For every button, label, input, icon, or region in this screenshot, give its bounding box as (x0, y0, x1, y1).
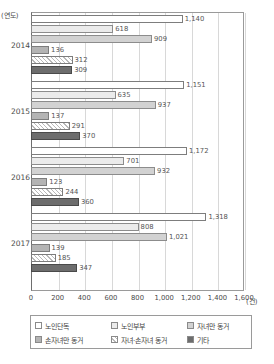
x-tick-label: 600 (104, 294, 117, 302)
legend-swatch-icon (187, 336, 194, 343)
bar-value-label: 123 (49, 178, 62, 186)
y-axis-unit-label: (연도) (1, 10, 18, 20)
bar (31, 112, 49, 120)
chart-legend: 노인단독 노인부부 자녀만 동거 손자녀만 동거 자녀·손자녀 동거 (30, 315, 252, 349)
bar-value-label: 808 (141, 223, 154, 231)
legend-label: 자녀만 동거 (197, 321, 229, 331)
bar-value-label: 1,318 (208, 213, 227, 221)
bar (31, 101, 156, 109)
bar-value-label: 635 (118, 91, 131, 99)
gridline (245, 13, 246, 290)
bar-value-label: 618 (115, 25, 128, 33)
bar (31, 264, 77, 272)
legend-item-3[interactable]: 손자녀만 동거 (35, 335, 111, 345)
bar (31, 46, 49, 54)
bar-value-label: 136 (51, 46, 64, 54)
legend-swatch-icon (35, 322, 42, 329)
x-tick-label: 1,400 (208, 294, 227, 302)
x-tick-label: 1,000 (154, 294, 173, 302)
bar-value-label: 137 (51, 112, 64, 120)
legend-swatch-icon (187, 322, 194, 329)
bar-value-label: 360 (81, 198, 94, 206)
bar-value-label: 347 (79, 264, 92, 272)
bar-value-label: 1,021 (169, 233, 188, 241)
year-label: 2017 (2, 239, 30, 248)
legend-label: 손자녀만 동거 (45, 335, 83, 345)
year-label: 2014 (2, 41, 30, 50)
legend-item-4[interactable]: 자녀·손자녀 동거 (111, 335, 187, 345)
legend-swatch-icon (35, 336, 42, 343)
bar-value-label: 244 (65, 188, 78, 196)
bar (31, 81, 184, 89)
bar (31, 213, 206, 221)
bar-value-label: 291 (72, 122, 85, 130)
legend-row: 노인단독 노인부부 자녀만 동거 (35, 319, 247, 332)
bar (31, 254, 56, 262)
bar (31, 233, 167, 241)
x-tick-label: 800 (131, 294, 144, 302)
bar-value-label: 701 (126, 157, 139, 165)
bar-chart: (연도) 2014201520162017 1,1406189091363123… (0, 0, 274, 364)
bar-value-label: 309 (74, 66, 87, 74)
year-label: 2016 (2, 173, 30, 182)
legend-row: 손자녀만 동거 자녀·손자녀 동거 기타 (35, 333, 247, 346)
bar-value-label: 909 (154, 35, 167, 43)
bar (31, 188, 63, 196)
bar (31, 147, 187, 155)
x-tick-label: 1,200 (181, 294, 200, 302)
legend-item-5[interactable]: 기타 (187, 335, 247, 345)
bar-value-label: 185 (58, 254, 71, 262)
year-label: 2015 (2, 107, 30, 116)
x-axis-unit-label: (건) (246, 296, 257, 306)
bar (31, 56, 73, 64)
legend-label: 노인단독 (45, 321, 69, 331)
bar (31, 66, 72, 74)
legend-item-0[interactable]: 노인단독 (35, 321, 111, 331)
bar-value-label: 370 (82, 132, 95, 140)
bar (31, 198, 79, 206)
legend-label: 노인부부 (121, 321, 145, 331)
bar-value-label: 1,172 (189, 147, 208, 155)
bar-value-label: 1,151 (186, 81, 205, 89)
x-tick-label: 0 (29, 294, 33, 302)
bar-value-label: 937 (158, 101, 171, 109)
bar-value-label: 312 (75, 56, 88, 64)
bar (31, 167, 155, 175)
gridline (218, 13, 219, 290)
bar (31, 25, 113, 33)
legend-label: 기타 (197, 335, 209, 345)
legend-swatch-icon (111, 336, 118, 343)
bar (31, 244, 50, 252)
legend-item-1[interactable]: 노인부부 (111, 321, 187, 331)
bar-value-label: 932 (157, 167, 170, 175)
bar (31, 157, 124, 165)
bar (31, 15, 183, 23)
bar (31, 35, 152, 43)
bar (31, 132, 80, 140)
bar (31, 223, 139, 231)
bar (31, 122, 70, 130)
legend-item-2[interactable]: 자녀만 동거 (187, 321, 247, 331)
bar-value-label: 139 (52, 244, 65, 252)
bar (31, 91, 116, 99)
legend-swatch-icon (111, 322, 118, 329)
x-tick-label: 200 (51, 294, 64, 302)
x-tick-label: 400 (78, 294, 91, 302)
bar-value-label: 1,140 (185, 15, 204, 23)
legend-label: 자녀·손자녀 동거 (121, 335, 167, 345)
bar (31, 178, 47, 186)
